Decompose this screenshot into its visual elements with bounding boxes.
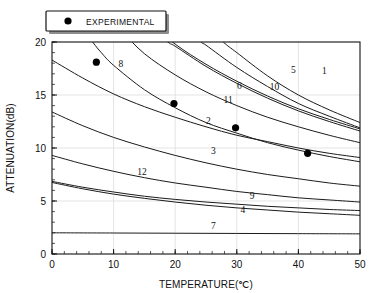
x-axis-tick-labels: 01020304050 [49, 259, 366, 270]
curve-label-5: 5 [291, 65, 296, 75]
curve-label-8: 8 [119, 59, 124, 69]
experimental-point [232, 124, 239, 131]
curve-9 [52, 181, 360, 210]
curve-2 [52, 60, 360, 158]
curve-label-10: 10 [270, 82, 280, 92]
x-tick-label: 30 [231, 259, 243, 270]
curve-label-3: 3 [211, 146, 216, 156]
legend: EXPERIMENTAL [46, 11, 169, 34]
experimental-point [304, 150, 311, 157]
y-axis-tick-labels: 05101520 [35, 37, 47, 260]
chart-figure: 123456789101112 01020304050 05101520 TEM… [0, 0, 377, 293]
attenuation-vs-temperature-chart: 123456789101112 01020304050 05101520 TEM… [0, 0, 377, 293]
legend-marker-filled-circle [64, 17, 71, 24]
x-tick-label: 40 [293, 259, 305, 270]
experimental-data-points [93, 59, 311, 157]
y-tick-label: 15 [35, 90, 47, 101]
x-tick-label: 10 [108, 259, 120, 270]
curve-label-7: 7 [211, 221, 216, 231]
legend-entry-label: EXPERIMENTAL [86, 17, 155, 27]
curve-label-6: 6 [237, 81, 242, 91]
curve-label-2: 2 [206, 116, 211, 126]
y-tick-label: 5 [40, 196, 46, 207]
curve-7 [52, 233, 360, 234]
curve-label-4: 4 [241, 205, 246, 215]
x-tick-label: 0 [49, 259, 55, 270]
curve-label-9: 9 [250, 191, 255, 201]
experimental-point [170, 100, 177, 107]
x-axis-title: TEMPERATURE(℃) [159, 279, 253, 290]
y-tick-label: 10 [35, 143, 47, 154]
curve-label-1: 1 [322, 66, 327, 76]
curve-number-labels: 123456789101112 [119, 59, 327, 231]
grid-lines [52, 42, 360, 254]
curve-label-11: 11 [224, 95, 233, 105]
y-tick-label: 20 [35, 37, 47, 48]
curve-label-12: 12 [137, 167, 147, 177]
x-tick-label: 50 [354, 259, 366, 270]
y-tick-label: 0 [40, 249, 46, 260]
experimental-point [93, 59, 100, 66]
x-tick-label: 20 [170, 259, 182, 270]
y-axis-title: ATTENUATION(dB) [5, 103, 16, 192]
